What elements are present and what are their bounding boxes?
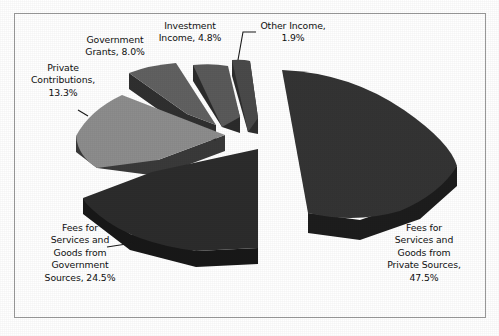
slice-label-fees-government-sources: Fees for Services and Goods from Governm… <box>24 222 136 284</box>
slice-label-government-grants: Government Grants, 8.0% <box>70 34 160 59</box>
slice-label-private-contributions: Private Contributions, 13.3% <box>22 62 104 99</box>
slice-label-other-income: Other Income, 1.9% <box>250 20 336 45</box>
leader-line-private-contributions <box>78 110 88 116</box>
slice-label-fees-private-sources: Fees for Services and Goods from Private… <box>372 222 476 284</box>
slice-label-investment-income: Investment Income, 4.8% <box>148 20 232 45</box>
pie-chart-figure: Government Grants, 8.0% Private Contribu… <box>0 0 499 336</box>
